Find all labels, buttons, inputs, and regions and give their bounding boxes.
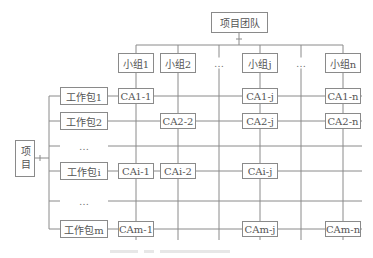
control-account-box: CA2-j [242,113,278,129]
connector-lines [0,0,373,258]
project-team-box: 项目团队 [211,12,268,33]
work-package-box: 工作包m [60,220,108,238]
control-account-box: CAi-j [242,163,278,179]
work-package-box: 工作包2 [60,112,108,130]
control-account-box: CA2-2 [160,113,196,129]
group-box: 小组2 [160,53,196,73]
work-package-box: 工作包i [60,162,108,180]
control-account-box: CA1-n [325,88,361,104]
work-package-ellipsis: … [65,141,103,152]
control-account-box: CAi-1 [118,163,154,179]
figure-caption-illegible [110,248,260,254]
group-ellipsis: … [294,58,308,69]
control-account-box: CAi-2 [160,163,196,179]
control-account-box: CAm-j [242,221,278,237]
control-account-box: CAm-1 [118,221,154,237]
group-box: 小组j [242,53,278,73]
control-account-box: CA1-j [242,88,278,104]
group-box: 小组1 [118,53,154,73]
work-package-box: 工作包1 [60,87,108,105]
matrix-organization-diagram: 项目团队 项目 小组1小组2…小组j…小组n 工作包1工作包2…工作包i…工作包… [0,0,373,258]
group-box: 小组n [325,53,361,73]
project-box: 项目 [15,140,35,177]
control-account-box: CA1-1 [118,88,154,104]
work-package-ellipsis: … [65,196,103,207]
control-account-box: CAm-n [325,221,361,237]
group-ellipsis: … [212,58,226,69]
control-account-box: CA2-n [325,113,361,129]
